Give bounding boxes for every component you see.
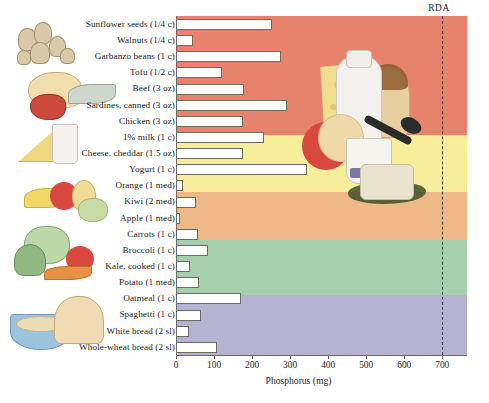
- bar: [176, 197, 196, 208]
- bar-row: White bread (2 sl): [0, 323, 489, 340]
- bar-row-label: Sunflower seeds (1/4 c): [86, 20, 175, 29]
- x-tick: [442, 355, 443, 359]
- x-tick: [176, 355, 177, 359]
- bar: [176, 213, 180, 224]
- x-tick: [214, 355, 215, 359]
- x-tick-label: 500: [359, 360, 373, 370]
- x-axis-title: Phosphorus (mg): [0, 375, 489, 386]
- x-tick: [290, 355, 291, 359]
- x-tick-label: 100: [207, 360, 221, 370]
- bar-row: Sunflower seeds (1/4 c): [0, 16, 489, 33]
- bar-row: Apple (1 med): [0, 210, 489, 227]
- bar-row-label: Oatmeal (1 c): [123, 294, 175, 303]
- bar-row: Kiwi (2 med): [0, 194, 489, 211]
- rda-label: RDA: [428, 3, 450, 13]
- bar-row: Walnuts (1/4 c): [0, 32, 489, 49]
- bar-row: Potato (1 med): [0, 274, 489, 291]
- bar-row-label: Walnuts (1/4 c): [117, 36, 175, 45]
- x-tick-label: 400: [321, 360, 335, 370]
- bar-row-label: 1% milk (1 c): [123, 133, 175, 142]
- x-tick-label: 300: [283, 360, 297, 370]
- x-tick-label: 200: [245, 360, 259, 370]
- bar: [176, 326, 189, 337]
- x-tick: [404, 355, 405, 359]
- bar: [176, 245, 208, 256]
- bar: [176, 277, 199, 288]
- bar-row: Carrots (1 c): [0, 226, 489, 243]
- x-tick: [252, 355, 253, 359]
- x-tick-label: 700: [435, 360, 449, 370]
- bar-row-label: Apple (1 med): [120, 214, 175, 223]
- bar-row: Whole-wheat bread (2 sl): [0, 339, 489, 356]
- bar-row: Oatmeal (1 c): [0, 290, 489, 307]
- bar-row: Sardines, canned (3 oz): [0, 97, 489, 114]
- bar-row: Kale, cooked (1 c): [0, 258, 489, 275]
- bar-row-label: Carrots (1 c): [127, 230, 175, 239]
- bar-rows: Sunflower seeds (1/4 c)Walnuts (1/4 c)Ga…: [0, 16, 489, 355]
- bar-row: Broccoli (1 c): [0, 242, 489, 259]
- bar-row-label: White bread (2 sl): [107, 327, 175, 336]
- bar: [176, 67, 222, 78]
- bar: [176, 116, 243, 127]
- bar-row: Spaghetti (1 c): [0, 307, 489, 324]
- bar-row-label: Chicken (3 oz): [119, 117, 175, 126]
- bar: [176, 132, 264, 143]
- bar-row: Chicken (3 oz): [0, 113, 489, 130]
- bar: [176, 51, 281, 62]
- bar: [176, 84, 244, 95]
- bar: [176, 100, 287, 111]
- bar: [176, 180, 183, 191]
- x-tick-label: 0: [174, 360, 179, 370]
- x-axis-line: [176, 355, 467, 356]
- bar-row: Garbanzo beans (1 c): [0, 48, 489, 65]
- rda-reference-line: [442, 16, 443, 355]
- bar: [176, 148, 243, 159]
- bar-row-label: Sardines, canned (3 oz): [86, 101, 175, 110]
- bar-row-label: Spaghetti (1 c): [119, 310, 175, 319]
- bar-row: Beef (3 oz): [0, 81, 489, 98]
- bar-row: Yogurt (1 c): [0, 161, 489, 178]
- bar-row-label: Tofu (1/2 c): [130, 68, 175, 77]
- bar-row-label: Beef (3 oz): [133, 84, 175, 93]
- bar-row-label: Garbanzo beans (1 c): [95, 52, 175, 61]
- bar-row: Tofu (1/2 c): [0, 64, 489, 81]
- bar-row-label: Yogurt (1 c): [129, 165, 175, 174]
- bar-row-label: Broccoli (1 c): [123, 246, 175, 255]
- bar: [176, 19, 272, 30]
- bar: [176, 35, 193, 46]
- bar-row-label: Orange (1 med): [115, 181, 175, 190]
- bar-row: Cheese, cheddar (1.5 oz): [0, 145, 489, 162]
- x-tick-label: 600: [397, 360, 411, 370]
- bar: [176, 293, 241, 304]
- bar-row-label: Whole-wheat bread (2 sl): [79, 343, 175, 352]
- bar: [176, 164, 307, 175]
- bar: [176, 229, 198, 240]
- bar-row-label: Potato (1 med): [119, 278, 175, 287]
- bar: [176, 310, 201, 321]
- x-tick: [366, 355, 367, 359]
- phosphorus-bar-chart-figure: Sunflower seeds (1/4 c)Walnuts (1/4 c)Ga…: [0, 0, 489, 403]
- bar-row-label: Kale, cooked (1 c): [105, 262, 175, 271]
- bar-row-label: Kiwi (2 med): [124, 197, 175, 206]
- x-tick: [328, 355, 329, 359]
- bar-row: 1% milk (1 c): [0, 129, 489, 146]
- bar: [176, 342, 217, 353]
- x-axis-title-text: Phosphorus (mg): [266, 375, 332, 386]
- bar-row: Orange (1 med): [0, 177, 489, 194]
- bar: [176, 261, 190, 272]
- bar-row-label: Cheese, cheddar (1.5 oz): [82, 149, 175, 158]
